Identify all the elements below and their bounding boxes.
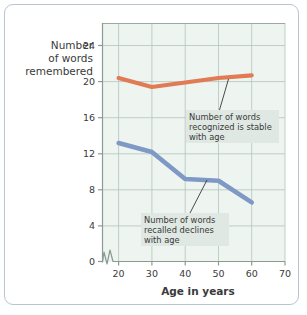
- recalled-annotation-line-2: recalled declines: [144, 225, 214, 235]
- recognized-annotation-line-1: Number of words: [189, 112, 260, 122]
- recalled-annotation-line-1: Number of words: [144, 215, 215, 225]
- chart-figure: 24 20 16 12 8 4 0 20 30 40 50: [0, 0, 307, 315]
- recognized-annotation-line-2: recognized is stable: [189, 122, 272, 132]
- xtick-label-40: 40: [179, 268, 191, 279]
- x-axis-title: Age in years: [161, 285, 235, 297]
- ytick-label-4: 4: [89, 220, 95, 231]
- ytick-label-16: 16: [83, 112, 95, 123]
- recalled-annotation-line-3: with age: [144, 235, 180, 245]
- y-axis-title-line-1: Number: [51, 39, 94, 51]
- recognized-annotation-line-3: with age: [189, 132, 225, 142]
- memory-line-chart: 24 20 16 12 8 4 0 20 30 40 50: [0, 0, 307, 315]
- ytick-label-0: 0: [89, 256, 95, 267]
- xtick-label-50: 50: [212, 268, 224, 279]
- y-axis-title-line-2: of words: [48, 52, 93, 64]
- ytick-label-12: 12: [83, 148, 95, 159]
- y-axis-title: Number of words remembered: [25, 39, 93, 77]
- xtick-label-20: 20: [113, 268, 125, 279]
- ytick-label-20: 20: [83, 76, 95, 87]
- xtick-label-70: 70: [279, 268, 291, 279]
- xtick-label-30: 30: [146, 268, 158, 279]
- y-axis-ticks: [98, 46, 103, 262]
- y-axis-title-line-3: remembered: [25, 65, 93, 77]
- ytick-label-8: 8: [89, 184, 95, 195]
- recognized-annotation: Number of words recognized is stable wit…: [186, 110, 279, 143]
- recalled-annotation: Number of words recalled declines with a…: [141, 213, 229, 246]
- x-tick-labels: 20 30 40 50 60 70: [113, 268, 291, 279]
- xtick-label-60: 60: [246, 268, 258, 279]
